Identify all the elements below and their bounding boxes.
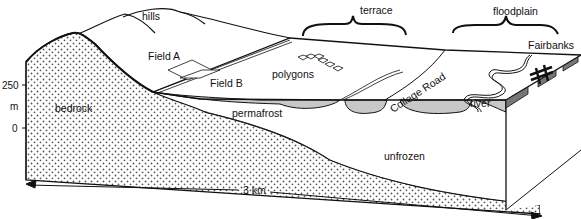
tick-250: 250 [2, 80, 19, 91]
label-terrace: terrace [360, 4, 393, 16]
label-unfrozen: unfrozen [384, 150, 425, 162]
label-floodplain: floodplain [493, 5, 538, 17]
label-permafrost: permafrost [232, 107, 282, 119]
label-bedrock: bedrock [55, 102, 93, 114]
label-polygons: polygons [272, 68, 314, 80]
label-field-a: Field A [148, 50, 180, 62]
axis-unit: m [10, 101, 18, 112]
hills-outline [73, 9, 290, 38]
label-field-b: Field B [210, 77, 243, 89]
label-river: river [470, 97, 491, 109]
scale-label: 3 km [243, 184, 266, 196]
tick-0: 0 [12, 123, 18, 134]
permafrost-block-diagram: 250 m 0 3 km hills terrace floodplain Fa… [0, 0, 581, 219]
label-hills: hills [142, 10, 160, 22]
brackets [303, 16, 558, 36]
label-fairbanks: Fairbanks [528, 39, 574, 51]
